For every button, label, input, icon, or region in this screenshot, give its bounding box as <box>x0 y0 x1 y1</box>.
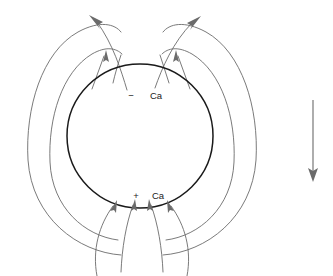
species-label-bottom: Ca <box>152 190 165 201</box>
field-lines-bottom-incoming <box>95 199 188 276</box>
field-line-top-left-curve <box>97 22 127 90</box>
central-sphere <box>67 64 213 208</box>
figure-root: − Ca + Ca <box>0 0 333 276</box>
field-line-bottom-3 <box>151 205 163 272</box>
downward-arrow <box>308 100 318 182</box>
charge-sign-top: − <box>128 90 134 101</box>
field-line-bottom-2 <box>121 205 133 272</box>
field-line-bottom-1 <box>95 206 113 276</box>
field-streak-top-1 <box>92 56 104 89</box>
charge-sign-bottom: + <box>133 190 139 201</box>
field-streak-top-4 <box>178 56 190 89</box>
field-line-bottom-4 <box>171 206 189 276</box>
dipole-field-diagram: − Ca + Ca <box>0 0 333 276</box>
field-line-left-inner <box>50 49 122 240</box>
field-streaks-top <box>92 50 190 89</box>
field-line-right-inner <box>162 49 234 240</box>
species-label-top: Ca <box>150 90 163 101</box>
label-group-top: − Ca <box>128 90 163 101</box>
arrowhead-top-right <box>187 16 201 30</box>
